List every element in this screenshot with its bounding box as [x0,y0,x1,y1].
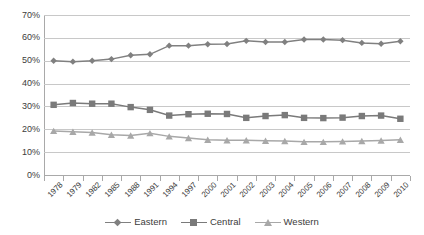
chart-figure: 0%10%20%30%40%50%60%70% 1978197919821985… [0,0,424,235]
data-point-marker [320,115,326,121]
x-tick-label: 1988 [123,181,141,199]
x-tick-label: 1991 [142,181,160,199]
x-tick-label: 2010 [393,181,411,199]
x-tick-label: 2008 [354,181,372,199]
legend-swatch-triangle-icon [255,217,281,227]
x-tick-label: 2001 [219,181,237,199]
y-tick-label: 40% [0,79,40,88]
data-point-marker [301,115,307,121]
data-point-marker [50,58,56,64]
y-tick-label: 20% [0,125,40,134]
y-tick-label: 50% [0,56,40,65]
plot-area [44,15,410,175]
x-tick-label: 2006 [316,181,334,199]
data-point-marker [70,100,76,106]
data-point-marker [166,42,172,48]
legend-label: Western [284,217,319,227]
data-point-marker [359,113,365,119]
x-tick-label: 2000 [200,181,218,199]
y-tick-label: 70% [0,11,40,20]
data-point-marker [397,38,403,44]
data-point-marker [205,111,211,117]
y-tick-label: 10% [0,148,40,157]
x-tick-label: 2004 [277,181,295,199]
data-point-marker [339,114,345,120]
data-point-marker [282,112,288,118]
data-point-marker [301,36,307,42]
x-tick-label: 2007 [335,181,353,199]
data-point-marker [89,100,95,106]
legend-swatch-square-icon [181,217,207,227]
data-point-marker [185,42,191,48]
y-tick-label: 60% [0,33,40,42]
series-container [44,15,410,175]
y-tick-label: 30% [0,102,40,111]
data-point-marker [89,58,95,64]
legend-swatch-diamond-icon [105,217,131,227]
data-point-marker [243,115,249,121]
data-point-marker [224,41,230,47]
data-point-marker [359,40,365,46]
data-point-marker [108,100,114,106]
legend-item-eastern[interactable]: Eastern [105,217,167,227]
x-tick-label: 1979 [65,181,83,199]
x-tick-label: 1997 [181,181,199,199]
data-point-marker [243,38,249,44]
data-point-marker [378,41,384,47]
x-axis-tick-labels: 1978197919821985198819911994199720002001… [44,181,410,211]
series-western [50,128,404,145]
data-point-marker [320,36,326,42]
legend-item-central[interactable]: Central [181,217,241,227]
x-tick-label: 1994 [162,181,180,199]
y-tick-label: 0% [0,171,40,180]
data-point-marker [282,39,288,45]
legend-item-western[interactable]: Western [255,217,319,227]
data-point-marker [397,116,403,122]
data-point-marker [339,37,345,43]
data-point-marker [50,102,56,108]
y-axis-tick-labels: 0%10%20%30%40%50%60%70% [0,15,40,175]
data-point-marker [127,104,133,110]
chart-legend: EasternCentralWestern [0,213,424,231]
data-point-marker [262,39,268,45]
data-point-marker [166,112,172,118]
data-point-marker [185,111,191,117]
data-point-marker [224,111,230,117]
data-point-marker [147,51,153,57]
data-point-marker [70,58,76,64]
data-point-marker [262,113,268,119]
data-point-marker [205,41,211,47]
x-tick-label: 1978 [46,181,64,199]
series-central [50,100,403,122]
x-tick-label: 2002 [239,181,257,199]
data-point-marker [127,52,133,58]
x-tick-label: 1985 [104,181,122,199]
x-tick-label: 2003 [258,181,276,199]
data-point-marker [378,112,384,118]
data-point-marker [147,107,153,113]
legend-label: Central [210,217,241,227]
x-tick [410,176,411,181]
x-tick-label: 2005 [296,181,314,199]
data-point-marker [108,56,114,62]
series-eastern [50,36,403,65]
x-tick-label: 1982 [85,181,103,199]
legend-label: Eastern [134,217,167,227]
x-tick-label: 2009 [374,181,392,199]
